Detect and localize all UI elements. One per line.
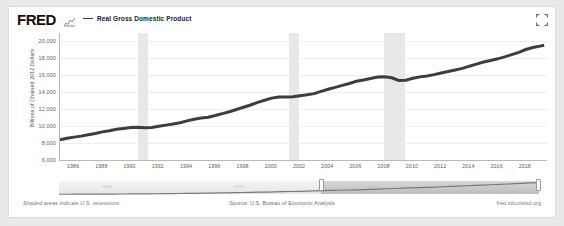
legend-line-swatch xyxy=(83,18,93,20)
x-axis-tick-label: 2004 xyxy=(321,163,333,169)
chart-plot-area: Billions of Chained 2012 Dollars 6,0008,… xyxy=(17,33,547,173)
x-axis-tick-label: 2016 xyxy=(491,163,503,169)
x-axis-tick-label: 1998 xyxy=(236,163,248,169)
slider-handle-right[interactable] xyxy=(536,179,541,191)
y-axis-tick-label: 18,000 xyxy=(17,55,56,61)
gridline xyxy=(60,160,547,161)
minimap-year-label: 1990 xyxy=(366,184,376,189)
fred-url[interactable]: fred.stlouisfed.org xyxy=(497,200,541,206)
x-axis-tick-label: 2000 xyxy=(265,163,277,169)
gdp-line-path xyxy=(60,45,544,139)
fred-logo: FRED xyxy=(17,11,56,28)
minimap-line-path xyxy=(59,183,539,195)
x-axis-tick-label: 1994 xyxy=(180,163,192,169)
x-axis-tick-label: 2002 xyxy=(293,163,305,169)
minimap-year-label: 2010 xyxy=(498,184,508,189)
minimap-year-label: 1970 xyxy=(234,184,244,189)
fullscreen-expand-icon[interactable] xyxy=(536,14,548,26)
y-axis-tick-label: 6,000 xyxy=(17,157,56,163)
y-axis-tick-label: 10,000 xyxy=(17,123,56,129)
y-axis-tick-label: 8,000 xyxy=(17,140,56,146)
x-axis-tick-label: 2010 xyxy=(406,163,418,169)
x-axis-tick-label: 2012 xyxy=(434,163,446,169)
chart-footer: Shaded areas indicate U.S. recessions So… xyxy=(9,197,555,217)
x-axis-tick-label: 2014 xyxy=(462,163,474,169)
y-axis-tick-label: 20,000 xyxy=(17,38,56,44)
chart-header: FRED Real Gross Domestic Product xyxy=(9,7,555,33)
fred-chart-widget: FRED Real Gross Domestic Product Billion… xyxy=(8,6,556,218)
plot-canvas[interactable] xyxy=(59,33,547,161)
recession-note: Shaded areas indicate U.S. recessions xyxy=(23,200,119,206)
chart-legend[interactable]: Real Gross Domestic Product xyxy=(83,15,191,22)
x-axis-tick-label: 1992 xyxy=(152,163,164,169)
source-note: Source: U.S. Bureau of Economic Analysis xyxy=(229,200,335,206)
date-range-slider[interactable]: 1950197019902010 xyxy=(59,179,539,197)
x-axis-tick-label: 2008 xyxy=(378,163,390,169)
legend-series-label: Real Gross Domestic Product xyxy=(97,15,191,22)
y-axis-tick-label: 12,000 xyxy=(17,106,56,112)
minimap-sparkline xyxy=(59,179,539,197)
minimap-year-label: 1950 xyxy=(102,184,112,189)
x-axis-tick-label: 1986 xyxy=(67,163,79,169)
x-axis-tick-label: 1988 xyxy=(95,163,107,169)
fred-squiggle-icon xyxy=(64,18,75,27)
gdp-line-series xyxy=(60,33,547,160)
x-axis-tick-label: 1996 xyxy=(208,163,220,169)
x-axis-tick-label: 1990 xyxy=(123,163,135,169)
y-axis-tick-label: 16,000 xyxy=(17,72,56,78)
slider-handle-left[interactable] xyxy=(319,179,324,191)
x-axis-tick-label: 2018 xyxy=(519,163,531,169)
x-axis-tick-label: 2006 xyxy=(349,163,361,169)
y-axis-tick-label: 14,000 xyxy=(17,89,56,95)
